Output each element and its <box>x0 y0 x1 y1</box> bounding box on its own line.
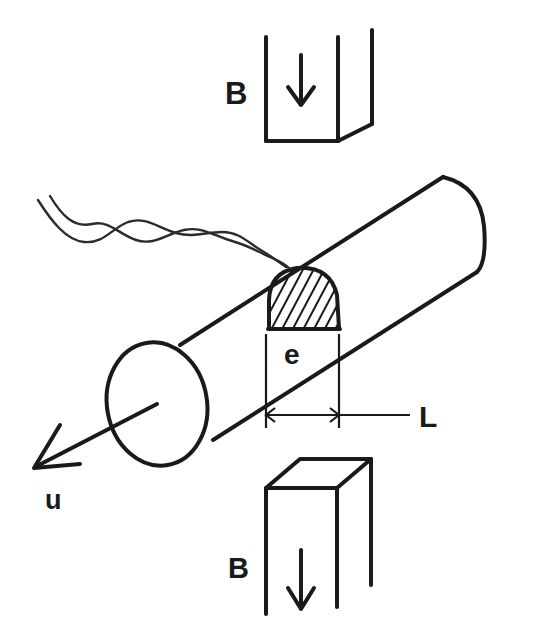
diagram-canvas: B u <box>0 0 536 624</box>
top-field-label: B <box>225 76 247 111</box>
velocity-label: u <box>45 485 62 515</box>
bottom-box-top-face <box>266 459 371 488</box>
bottom-field-arrow <box>288 550 314 609</box>
wave-strand-upper <box>38 200 286 267</box>
top-field-box <box>266 30 372 141</box>
incident-wave <box>38 196 290 269</box>
cylinder-right-cap <box>443 177 485 272</box>
top-box-bottom-receding-edge <box>338 124 372 141</box>
wave-strand-lower <box>50 196 290 269</box>
dome-outline <box>269 268 339 328</box>
bottom-field-label: B <box>228 552 249 584</box>
figure-root: B u <box>0 0 536 624</box>
top-field-arrow <box>288 55 314 105</box>
bottom-field-box <box>266 459 371 614</box>
length-label: L <box>419 400 437 433</box>
thickness-label: e <box>284 339 300 370</box>
